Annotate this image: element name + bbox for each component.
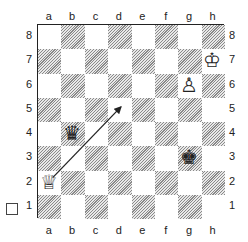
square-a1 [38,195,61,219]
square-f1 [155,195,178,219]
square-f7 [155,49,178,73]
file-label-a: a [37,10,60,22]
square-g2 [178,171,201,195]
square-b3 [61,146,84,170]
rank-label-7: 7 [24,53,34,65]
square-b8 [61,25,84,49]
square-g8 [178,25,201,49]
square-h2 [202,171,225,195]
square-e1 [132,195,155,219]
square-c2 [85,171,108,195]
square-h5 [202,98,225,122]
file-label-e: e [131,10,154,22]
square-d5 [108,98,131,122]
square-f4 [155,122,178,146]
square-c8 [85,25,108,49]
rank-label-5: 5 [24,102,34,114]
square-e8 [132,25,155,49]
square-a3 [38,146,61,170]
square-b6 [61,74,84,98]
white-queen-icon: ♕ [37,170,60,194]
square-h6 [202,74,225,98]
black-king-icon: ♚ [177,145,200,169]
file-label-c: c [84,224,107,236]
square-c5 [85,98,108,122]
rank-label-6: 6 [227,78,237,90]
square-a7 [38,49,61,73]
square-d1 [108,195,131,219]
square-d8 [108,25,131,49]
square-c1 [85,195,108,219]
square-e2 [132,171,155,195]
square-d3 [108,146,131,170]
white-king-icon: ♔ [201,48,224,72]
file-label-f: f [154,224,177,236]
square-d7 [108,49,131,73]
square-c3 [85,146,108,170]
file-label-h: h [201,224,224,236]
file-label-a: a [37,224,60,236]
square-h3 [202,146,225,170]
white-pawn-icon: ♙ [177,73,200,97]
rank-label-2: 2 [227,175,237,187]
file-label-b: b [60,224,83,236]
square-g7 [178,49,201,73]
file-label-h: h [201,10,224,22]
square-e3 [132,146,155,170]
square-a8 [38,25,61,49]
rank-label-8: 8 [227,29,237,41]
rank-label-2: 2 [24,175,34,187]
square-e4 [132,122,155,146]
file-label-g: g [177,10,200,22]
square-e7 [132,49,155,73]
square-a6 [38,74,61,98]
rank-label-3: 3 [227,150,237,162]
square-e6 [132,74,155,98]
square-f5 [155,98,178,122]
square-f6 [155,74,178,98]
square-h8 [202,25,225,49]
rank-label-5: 5 [227,102,237,114]
square-c6 [85,74,108,98]
rank-label-1: 1 [24,199,34,211]
file-label-c: c [84,10,107,22]
square-g4 [178,122,201,146]
square-a4 [38,122,61,146]
white-to-move-checkbox [6,203,18,215]
black-queen-icon: ♛ [60,121,83,145]
rank-label-1: 1 [227,199,237,211]
square-f3 [155,146,178,170]
file-label-d: d [107,10,130,22]
square-f2 [155,171,178,195]
rank-label-4: 4 [24,126,34,138]
square-g5 [178,98,201,122]
file-label-g: g [177,224,200,236]
rank-label-7: 7 [227,53,237,65]
square-h1 [202,195,225,219]
file-label-e: e [131,224,154,236]
rank-label-6: 6 [24,78,34,90]
square-b5 [61,98,84,122]
rank-label-3: 3 [24,150,34,162]
square-c4 [85,122,108,146]
square-b1 [61,195,84,219]
file-label-b: b [60,10,83,22]
square-d6 [108,74,131,98]
square-d4 [108,122,131,146]
rank-label-8: 8 [24,29,34,41]
square-g1 [178,195,201,219]
square-d2 [108,171,131,195]
square-f8 [155,25,178,49]
square-a5 [38,98,61,122]
file-label-f: f [154,10,177,22]
square-e5 [132,98,155,122]
square-h4 [202,122,225,146]
square-c7 [85,49,108,73]
rank-label-4: 4 [227,126,237,138]
square-b7 [61,49,84,73]
square-b2 [61,171,84,195]
file-label-d: d [107,224,130,236]
